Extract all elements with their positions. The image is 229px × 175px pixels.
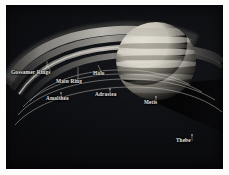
- leader-amalthea: [61, 94, 62, 99]
- moon-dot-metis: [155, 96, 157, 98]
- moon-dot-amalthea: [60, 92, 62, 94]
- figure-container: Gossamer Rings Main Ring Halo Amalthea A…: [0, 0, 229, 175]
- ring-system-artwork: [6, 5, 223, 169]
- moon-dot-adrastea: [109, 88, 111, 90]
- moon-dot-thebe: [191, 134, 193, 136]
- space-scene: Gossamer Rings Main Ring Halo Amalthea A…: [6, 5, 223, 169]
- leader-halo: [98, 65, 102, 74]
